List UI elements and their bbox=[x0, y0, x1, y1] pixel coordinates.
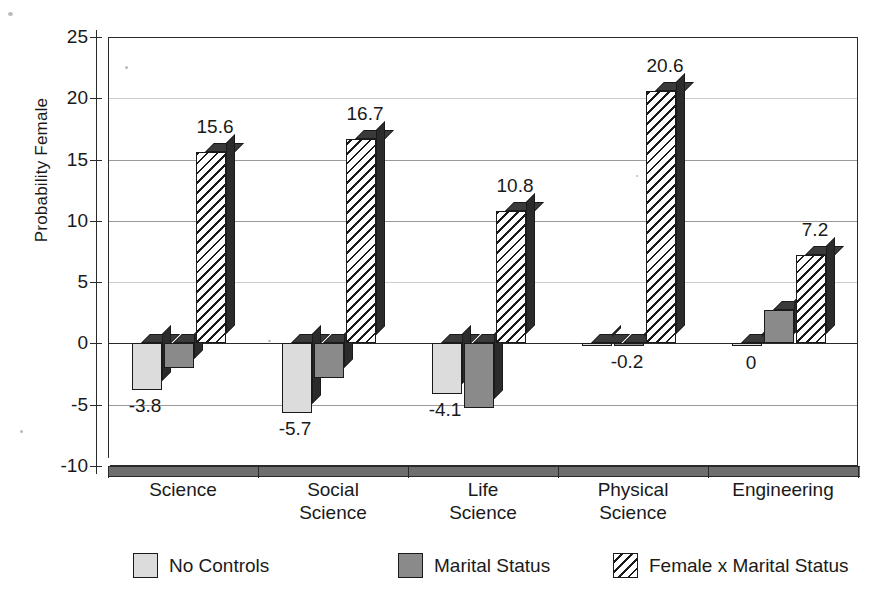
bar-top-face bbox=[355, 130, 394, 139]
bar bbox=[432, 343, 462, 393]
scan-speck bbox=[636, 175, 638, 177]
bar-value-label: 16.7 bbox=[330, 104, 400, 123]
scan-speck bbox=[268, 340, 271, 342]
x-axis-category-label: SocialScience bbox=[258, 478, 408, 524]
bar bbox=[282, 343, 312, 413]
y-axis-tick-label: 20 bbox=[42, 88, 88, 107]
bar bbox=[646, 91, 676, 343]
scan-speck bbox=[125, 66, 128, 69]
bar bbox=[346, 139, 376, 344]
y-axis-spine bbox=[96, 30, 97, 474]
bar-value-label: 0 bbox=[716, 353, 786, 372]
bar-group: -3.815.6 bbox=[108, 37, 258, 466]
x-axis-category-line: Social bbox=[258, 478, 408, 501]
bar-value-label: 7.2 bbox=[780, 220, 850, 239]
y-axis-tick-mark bbox=[90, 343, 102, 344]
bar-front-face bbox=[196, 152, 226, 343]
bar-side-face bbox=[226, 134, 235, 334]
bar-group: -5.716.7 bbox=[258, 37, 408, 466]
x-axis-category-line: Physical bbox=[558, 478, 708, 501]
bar-series-layer: -3.815.6-5.716.7-4.110.8-0.220.607.2 bbox=[108, 37, 858, 466]
x-axis-category-labels: ScienceSocialScienceLifeSciencePhysicalS… bbox=[108, 478, 858, 538]
bar-value-label: -0.2 bbox=[592, 352, 662, 371]
bar bbox=[614, 343, 644, 346]
bar-group: 07.2 bbox=[708, 37, 858, 466]
chart-canvas: Probability Female 2520151050-5-10 -3.81… bbox=[0, 0, 890, 614]
bar-side-face bbox=[526, 193, 535, 334]
bar-top-face bbox=[205, 143, 244, 152]
bar-value-label: -3.8 bbox=[110, 396, 180, 415]
bar-side-face bbox=[376, 121, 385, 335]
x-axis-category-line: Science bbox=[258, 501, 408, 524]
bar-front-face bbox=[796, 255, 826, 343]
y-axis-tick-label: 10 bbox=[42, 211, 88, 230]
bar bbox=[164, 343, 194, 368]
bar-front-face bbox=[432, 343, 462, 393]
scan-speck bbox=[8, 12, 13, 16]
bar-front-face bbox=[132, 343, 162, 390]
bar bbox=[764, 310, 794, 343]
bar-value-label: 15.6 bbox=[180, 117, 250, 136]
x-axis-tick-mark bbox=[258, 466, 259, 478]
x-axis-tick-mark bbox=[408, 466, 409, 478]
bar-front-face bbox=[346, 139, 376, 344]
bar-front-face bbox=[732, 343, 762, 346]
x-axis-tick-mark bbox=[858, 466, 859, 478]
bar-front-face bbox=[496, 211, 526, 343]
legend-item[interactable]: Marital Status bbox=[398, 553, 550, 578]
x-axis-category-label: PhysicalScience bbox=[558, 478, 708, 524]
x-axis-category-label: Engineering bbox=[708, 478, 858, 501]
x-axis-tick-mark bbox=[708, 466, 709, 478]
bar bbox=[732, 343, 762, 346]
y-axis-tick-mark bbox=[90, 98, 102, 99]
bar-side-face bbox=[676, 73, 685, 334]
bar-value-label: -5.7 bbox=[260, 419, 330, 438]
x-axis-category-label: LifeScience bbox=[408, 478, 558, 524]
y-axis-tick-label: 15 bbox=[42, 150, 88, 169]
x-axis-category-line: Science bbox=[108, 478, 258, 501]
y-axis-tick-labels: 2520151050-5-10 bbox=[42, 0, 88, 614]
y-axis-tick-label: -10 bbox=[42, 456, 88, 475]
bar-front-face bbox=[464, 343, 494, 408]
legend-label: No Controls bbox=[169, 556, 269, 575]
x-axis-category-line: Engineering bbox=[708, 478, 858, 501]
bar-front-face bbox=[614, 343, 644, 346]
bar-side-face bbox=[826, 237, 835, 334]
bar bbox=[464, 343, 494, 408]
legend-item[interactable]: Female x Marital Status bbox=[613, 553, 849, 578]
bar bbox=[132, 343, 162, 390]
x-axis-category-line: Science bbox=[558, 501, 708, 524]
x-axis-category-line: Science bbox=[408, 501, 558, 524]
bar-group: -0.220.6 bbox=[558, 37, 708, 466]
bar-front-face bbox=[764, 310, 794, 343]
y-axis-tick-mark bbox=[90, 221, 102, 222]
y-axis-tick-mark bbox=[90, 160, 102, 161]
bar bbox=[314, 343, 344, 377]
bar-value-label: 20.6 bbox=[630, 56, 700, 75]
bar-front-face bbox=[582, 343, 612, 346]
bar-group: -4.110.8 bbox=[408, 37, 558, 466]
legend-swatch bbox=[398, 553, 423, 578]
bar-front-face bbox=[164, 343, 194, 368]
bar bbox=[496, 211, 526, 343]
x-axis-category-line: Life bbox=[408, 478, 558, 501]
bar-value-label: 10.8 bbox=[480, 176, 550, 195]
x-axis-floor bbox=[108, 466, 860, 477]
bar-top-face bbox=[655, 82, 694, 91]
y-axis-tick-label: 5 bbox=[42, 272, 88, 291]
y-axis-tick-mark bbox=[90, 282, 102, 283]
legend-swatch bbox=[133, 553, 158, 578]
bar-front-face bbox=[314, 343, 344, 377]
x-axis-category-label: Science bbox=[108, 478, 258, 501]
x-axis-tick-mark bbox=[558, 466, 559, 478]
bar-front-face bbox=[646, 91, 676, 343]
y-axis-tick-mark bbox=[90, 37, 102, 38]
x-axis-tick-mark bbox=[108, 466, 109, 478]
y-axis-tick-mark bbox=[90, 405, 102, 406]
y-axis-tick-mark bbox=[90, 466, 102, 467]
legend-item[interactable]: No Controls bbox=[133, 553, 269, 578]
bar bbox=[796, 255, 826, 343]
chart-legend: No ControlsMarital StatusFemale x Marita… bbox=[0, 553, 890, 593]
legend-label: Female x Marital Status bbox=[649, 556, 849, 575]
bar bbox=[582, 343, 612, 346]
